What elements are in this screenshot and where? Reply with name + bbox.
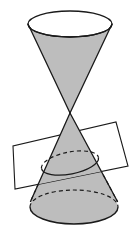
upper-cone-group <box>28 11 112 113</box>
conic-section-figure <box>0 0 140 235</box>
cone-apex-point <box>69 112 71 114</box>
conic-section-svg <box>0 0 140 235</box>
